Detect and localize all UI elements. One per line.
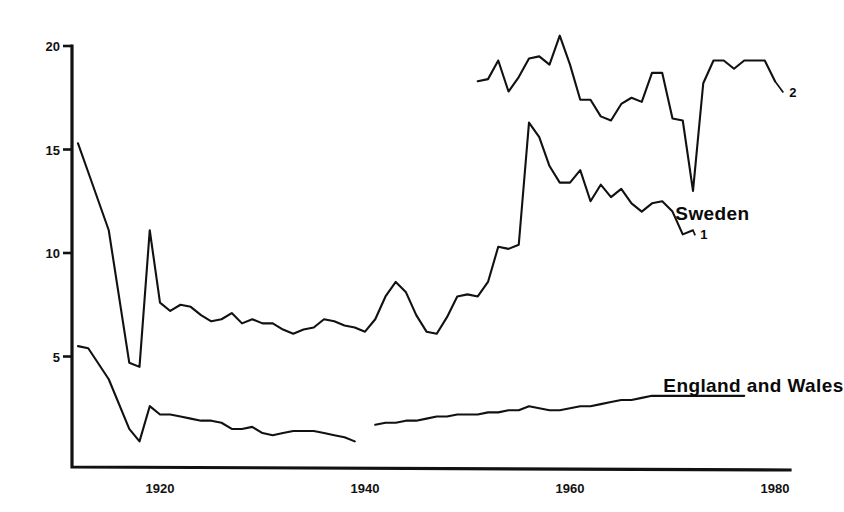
series-end-marker-1: 1 bbox=[700, 228, 707, 241]
series-line-sweden-2 bbox=[478, 36, 775, 191]
axis-lines bbox=[72, 46, 790, 470]
series-line-england-wales-segment-1 bbox=[78, 346, 355, 441]
y-axis-tick-label: 10 bbox=[20, 247, 60, 260]
series-label-england-and-wales: England and Wales bbox=[663, 376, 843, 395]
x-axis-tick-label: 1920 bbox=[146, 482, 175, 495]
y-axis-tick-label: 20 bbox=[20, 40, 60, 53]
x-axis-tick-label: 1940 bbox=[351, 482, 380, 495]
y-axis-tick-label: 5 bbox=[20, 350, 60, 363]
x-axis-tick-label: 1980 bbox=[761, 482, 790, 495]
series-end-marker-2: 2 bbox=[789, 85, 796, 98]
y-axis-tick-label: 15 bbox=[20, 143, 60, 156]
axes-group bbox=[63, 46, 790, 470]
series-label-sweden: Sweden bbox=[675, 203, 749, 222]
series-line-england-wales-segment-2 bbox=[375, 396, 744, 425]
leader-line-marker-1 bbox=[693, 230, 695, 235]
series-line-sweden-1 bbox=[78, 123, 693, 367]
leader-line-marker-2 bbox=[775, 81, 783, 92]
x-axis-tick-label: 1960 bbox=[556, 482, 585, 495]
